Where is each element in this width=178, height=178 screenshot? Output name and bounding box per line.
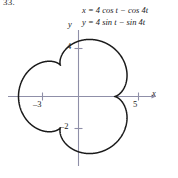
parametric-curve-figure: 33. x = 4 cos t − cos 4t y = 4 sin t − s…	[0, 0, 178, 178]
y-axis-label: y	[68, 19, 72, 29]
x-tick-label-5: 5	[133, 99, 137, 109]
y-tick-label-4: 4	[67, 41, 71, 51]
y-tick-label-negative-2: –2	[60, 121, 69, 131]
x-tick-label-negative-3: –3	[33, 99, 42, 109]
x-axis-label: x	[152, 88, 156, 98]
